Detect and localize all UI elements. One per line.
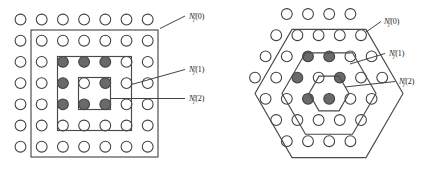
lattice-node-empty	[58, 35, 69, 46]
lattice-node-empty	[121, 120, 132, 131]
lattice-node-empty	[58, 14, 69, 25]
lattice-node-empty	[36, 35, 47, 46]
square-boundary-ring-1	[58, 57, 132, 131]
square-lattice-panel	[15, 14, 158, 157]
lattice-node-empty	[281, 51, 292, 62]
lattice-node-empty	[36, 99, 47, 110]
lattice-node-empty	[377, 72, 388, 83]
lattice-node-empty	[334, 115, 345, 126]
lattice-node-empty	[260, 93, 271, 104]
lattice-node-empty	[100, 120, 111, 131]
lattice-node-empty	[121, 78, 132, 89]
lattice-node-empty	[15, 57, 26, 68]
lattice-node-empty	[142, 120, 153, 131]
lattice-node-empty	[121, 35, 132, 46]
lattice-node-empty	[100, 14, 111, 25]
square-boundary-ring-2	[31, 30, 158, 157]
leader-line-ring-0	[366, 22, 381, 33]
lattice-node-empty	[79, 141, 90, 152]
lattice-node-empty	[15, 78, 26, 89]
neighborhood-label-ring-0: Nrj(0)	[188, 11, 205, 22]
lattice-node-empty	[334, 30, 345, 41]
lattice-node-empty	[324, 9, 335, 20]
lattice-node-marked	[58, 78, 69, 89]
lattice-node-empty	[100, 35, 111, 46]
lattice-node-marked	[100, 57, 111, 68]
lattice-node-empty	[36, 78, 47, 89]
figure-root: Nrj(0)Nrj(1)Nrj(2)Nrj(0)Nrj(1)Nrj(2)	[0, 0, 435, 173]
leader-line-ring-0	[160, 16, 185, 29]
lattice-node-empty	[142, 35, 153, 46]
lattice-node-marked	[58, 99, 69, 110]
lattice-node-empty	[313, 30, 324, 41]
lattice-node-empty	[313, 115, 324, 126]
lattice-node-empty	[15, 99, 26, 110]
lattice-node-empty	[100, 141, 111, 152]
lattice-node-empty	[121, 141, 132, 152]
neighborhood-label-ring-1: Nrj(1)	[388, 48, 405, 59]
neighborhood-label-ring-2: Nrj(2)	[398, 76, 415, 87]
lattice-node-marked	[79, 99, 90, 110]
lattice-node-marked	[79, 57, 90, 68]
lattice-node-empty	[292, 30, 303, 41]
lattice-node-empty	[281, 9, 292, 20]
neighborhood-label-ring-1: Nrj(1)	[188, 64, 205, 75]
lattice-node-empty	[15, 35, 26, 46]
lattice-neighborhood-figure: Nrj(0)Nrj(1)Nrj(2)Nrj(0)Nrj(1)Nrj(2)	[0, 0, 435, 173]
lattice-node-empty	[15, 141, 26, 152]
lattice-node-empty	[15, 14, 26, 25]
lattice-node-marked	[100, 99, 111, 110]
lattice-node-empty	[303, 136, 314, 147]
lattice-node-empty	[356, 30, 367, 41]
lattice-node-empty	[79, 78, 90, 89]
lattice-node-empty	[58, 120, 69, 131]
lattice-node-empty	[345, 93, 356, 104]
lattice-node-empty	[79, 14, 90, 25]
lattice-node-empty	[79, 120, 90, 131]
lattice-node-empty	[15, 120, 26, 131]
lattice-node-empty	[260, 51, 271, 62]
lattice-node-empty	[36, 14, 47, 25]
neighborhood-label-ring-2: Nrj(2)	[188, 93, 205, 104]
lattice-node-empty	[79, 35, 90, 46]
lattice-node-marked	[58, 57, 69, 68]
lattice-node-empty	[36, 120, 47, 131]
lattice-node-empty	[271, 30, 282, 41]
lattice-node-empty	[142, 57, 153, 68]
lattice-node-empty	[36, 57, 47, 68]
lattice-node-empty	[250, 72, 261, 83]
lattice-node-marked	[324, 93, 335, 104]
lattice-node-empty	[324, 136, 335, 147]
lattice-node-empty	[303, 9, 314, 20]
lattice-node-empty	[121, 57, 132, 68]
lattice-node-empty	[142, 14, 153, 25]
lattice-node-empty	[36, 141, 47, 152]
lattice-node-empty	[58, 141, 69, 152]
lattice-node-empty	[345, 9, 356, 20]
lattice-node-empty	[121, 99, 132, 110]
lattice-node-marked	[100, 78, 111, 89]
lattice-node-empty	[142, 141, 153, 152]
lattice-node-empty	[142, 99, 153, 110]
lattice-node-empty	[271, 72, 282, 83]
lattice-node-empty	[345, 136, 356, 147]
lattice-node-empty	[121, 14, 132, 25]
neighborhood-label-ring-0: Nrj(0)	[383, 16, 400, 27]
